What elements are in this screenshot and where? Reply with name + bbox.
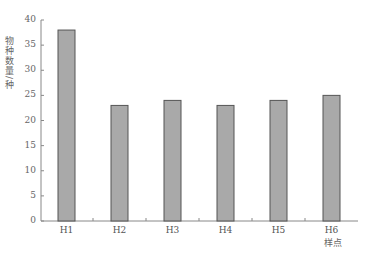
y-tick-label: 0	[16, 215, 36, 225]
y-tick-label: 10	[16, 165, 36, 175]
x-tick-label: H3	[158, 225, 188, 235]
bar-h5	[270, 100, 287, 221]
y-tick-label: 40	[16, 14, 36, 24]
y-tick-label: 15	[16, 140, 36, 150]
x-tick-label: H5	[264, 225, 294, 235]
bar-h3	[164, 100, 181, 221]
x-axis-title: 样点	[324, 236, 342, 249]
x-tick-label: H1	[52, 225, 82, 235]
y-axis-title: 物种数量/种	[4, 36, 16, 90]
bar-h4	[217, 105, 234, 221]
bar-h1	[58, 30, 75, 221]
x-tick-label: H2	[105, 225, 135, 235]
y-tick-label: 20	[16, 115, 36, 125]
y-tick-label: 30	[16, 64, 36, 74]
y-tick-label: 5	[16, 190, 36, 200]
bar-h2	[111, 105, 128, 221]
plot-area	[0, 0, 369, 258]
y-tick-label: 35	[16, 39, 36, 49]
x-tick-label: H4	[211, 225, 241, 235]
bar-chart: 物种数量/种 0510152025303540 H1H2H3H4H5H6 样点	[0, 0, 369, 258]
y-tick-label: 25	[16, 89, 36, 99]
x-tick-label: H6	[317, 225, 347, 235]
bar-h6	[323, 95, 340, 221]
